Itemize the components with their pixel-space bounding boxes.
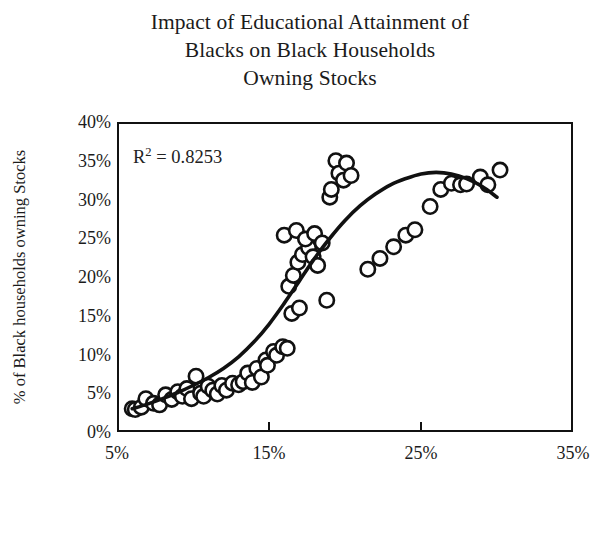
- data-point: [280, 341, 294, 355]
- r-squared-value: 0.8253: [171, 147, 222, 167]
- x-axis-tick-label: 5%: [82, 444, 152, 462]
- trendline-path: [132, 172, 497, 408]
- data-point: [423, 199, 437, 213]
- data-point: [361, 262, 375, 276]
- x-axis-tick-label: 35%: [538, 444, 608, 462]
- data-point-group: [125, 154, 507, 417]
- axis-tick-marks: [269, 422, 421, 431]
- data-point: [386, 240, 400, 254]
- data-point: [373, 251, 387, 265]
- r-squared-prefix: R: [133, 147, 145, 167]
- data-point: [320, 293, 334, 307]
- r-squared-annotation: R2 = 0.8253: [133, 145, 222, 168]
- x-axis-tick-label: 15%: [234, 444, 304, 462]
- data-point: [408, 223, 422, 237]
- chart-figure: Impact of Educational Attainment of Blac…: [0, 0, 612, 547]
- scatter-plot-canvas: [117, 122, 573, 432]
- r-squared-operator: =: [152, 147, 172, 167]
- x-axis-tick-label: 25%: [386, 444, 456, 462]
- data-point: [344, 168, 358, 182]
- data-point: [292, 301, 306, 315]
- data-point: [493, 163, 507, 177]
